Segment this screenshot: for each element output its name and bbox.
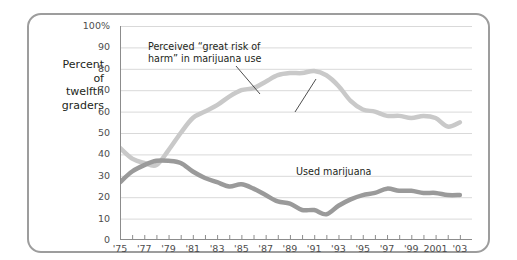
y-tick-label: 50 <box>66 127 110 138</box>
y-tick-label: 100% <box>66 20 110 31</box>
x-tick-label: '75 <box>113 243 128 254</box>
y-tick-label: 90 <box>66 41 110 52</box>
x-tick-label: '77 <box>137 243 152 254</box>
y-tick-label: 80 <box>66 63 110 74</box>
annotation-used-marijuana: Used marijuana <box>296 166 371 178</box>
x-tick-label: '97 <box>380 243 395 254</box>
x-tick-label: '93 <box>331 243 346 254</box>
x-tick-label: '79 <box>161 243 176 254</box>
x-tick-label: '99 <box>404 243 419 254</box>
series-line <box>120 71 460 166</box>
y-tick-label: 70 <box>66 84 110 95</box>
x-tick-label: 2001 <box>423 243 447 254</box>
y-tick-label: 0 <box>66 234 110 245</box>
y-tick-label: 10 <box>66 213 110 224</box>
y-tick-label: 30 <box>66 170 110 181</box>
y-tick-label: 60 <box>66 106 110 117</box>
chart-figure: Percent of twelfth graders 100%908070605… <box>0 0 517 260</box>
leader-line <box>295 79 316 112</box>
annotation-perceived-risk: Perceived “great risk of harm” in mariju… <box>148 41 261 65</box>
data-series-layer <box>120 71 460 214</box>
x-tick-label: '89 <box>283 243 298 254</box>
x-tick-label: '85 <box>234 243 249 254</box>
x-tick-label: '87 <box>258 243 273 254</box>
y-tick-label: 40 <box>66 148 110 159</box>
x-tick-label: '91 <box>307 243 322 254</box>
x-tick-label: '83 <box>210 243 225 254</box>
series-line <box>120 160 460 214</box>
y-tick-label: 20 <box>66 191 110 202</box>
x-tick-label: '81 <box>185 243 200 254</box>
x-tick-label: '03 <box>453 243 468 254</box>
x-tick-label: '95 <box>355 243 370 254</box>
